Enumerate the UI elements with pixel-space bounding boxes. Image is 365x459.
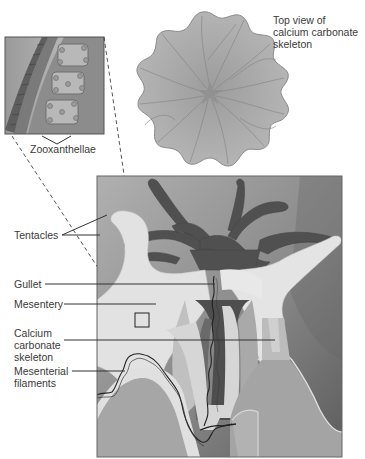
- label-mesentery: Mesentery: [14, 298, 63, 310]
- label-zooxanthellae: Zooxanthellae: [30, 143, 96, 155]
- label-calcium-carbonate-skeleton: Calcium carbonate skeleton: [14, 327, 61, 363]
- label-mesenterial-filaments: Mesenterial filaments: [14, 365, 68, 389]
- label-tentacles: Tentacles: [14, 229, 58, 241]
- top-view-skeleton: [137, 12, 289, 166]
- polyp-cross-section: [97, 176, 342, 457]
- zooxanthellae-inset: [5, 37, 104, 144]
- label-gullet: Gullet: [14, 278, 41, 290]
- label-top-view: Top view of calcium carbonate skeleton: [273, 14, 358, 50]
